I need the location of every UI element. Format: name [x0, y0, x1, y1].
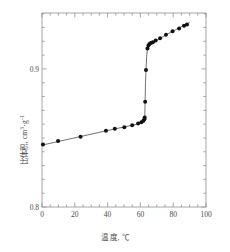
- x-tick-label: 100: [200, 210, 212, 219]
- data-point: [143, 116, 147, 120]
- data-point: [56, 139, 60, 143]
- data-point: [41, 143, 45, 147]
- x-axis-label: 温 度, ℃: [0, 231, 230, 242]
- specific-volume-temperature-chart: 020406080100 0.80.9: [0, 0, 230, 252]
- chart-background: [0, 0, 230, 252]
- y-axis-label-exponent-mass: -1: [19, 115, 25, 120]
- data-point: [185, 22, 189, 26]
- data-point: [144, 68, 148, 72]
- data-point: [104, 129, 108, 133]
- x-tick-label: 40: [104, 210, 112, 219]
- data-point: [158, 36, 162, 40]
- x-tick-label: 60: [137, 210, 145, 219]
- data-point: [164, 33, 168, 37]
- data-point: [154, 39, 158, 43]
- y-axis-label-exponent-volume: 3: [19, 127, 25, 130]
- data-point: [143, 100, 147, 104]
- x-tick-label: 20: [71, 210, 79, 219]
- data-point: [177, 27, 181, 31]
- y-axis-label: 比体积, cm3·g-1: [18, 115, 29, 165]
- y-tick-label: 0.8: [30, 203, 40, 212]
- data-point: [113, 127, 117, 131]
- data-point: [79, 135, 83, 139]
- y-tick-label: 0.9: [30, 65, 40, 74]
- data-point: [171, 29, 175, 33]
- data-point: [130, 123, 134, 127]
- data-point: [122, 125, 126, 129]
- x-tick-label: 80: [169, 210, 177, 219]
- x-tick-label: 0: [40, 210, 44, 219]
